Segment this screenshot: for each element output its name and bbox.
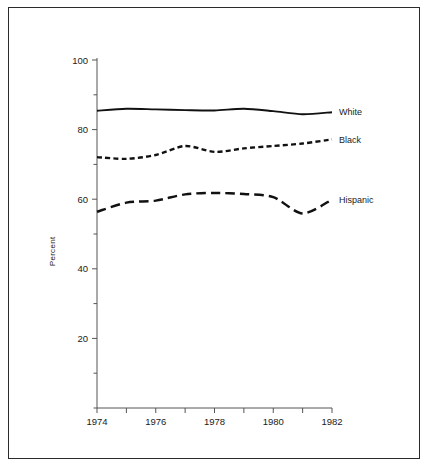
axis-titles: Percent: [48, 236, 57, 266]
x-tick-label: 1976: [145, 416, 166, 427]
y-axis: 20406080100: [72, 55, 97, 409]
x-tick-label: 1978: [204, 416, 225, 427]
y-axis-title: Percent: [48, 236, 57, 266]
series-labels: WhiteBlackHispanic: [339, 107, 374, 204]
x-tick-label: 1980: [263, 416, 284, 427]
series-line-hispanic: [97, 193, 332, 214]
line-chart: 20406080100 19741976197819801982 WhiteBl…: [0, 0, 429, 468]
series-label-white: White: [339, 107, 362, 117]
series-label-hispanic: Hispanic: [339, 195, 374, 205]
series-label-black: Black: [339, 135, 362, 145]
y-tick-label: 100: [72, 55, 88, 66]
y-tick-label: 80: [77, 124, 88, 135]
x-axis: 19741976197819801982: [86, 408, 342, 427]
series-line-white: [97, 109, 332, 115]
y-tick-label: 40: [77, 263, 88, 274]
y-tick-label: 20: [77, 333, 88, 344]
x-tick-label: 1982: [321, 416, 342, 427]
series-line-black: [97, 139, 332, 159]
y-tick-label: 60: [77, 194, 88, 205]
x-tick-label: 1974: [86, 416, 107, 427]
chart-canvas: 20406080100 19741976197819801982 WhiteBl…: [0, 0, 429, 468]
series-lines: [97, 109, 332, 214]
